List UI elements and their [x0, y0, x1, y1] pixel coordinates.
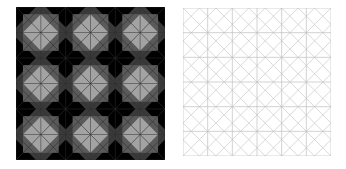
line-lattice-image: [183, 8, 331, 156]
diamond-tiling-image: [16, 7, 165, 160]
patterned-tile-left: [16, 7, 165, 160]
line-lattice-right: [183, 8, 331, 156]
